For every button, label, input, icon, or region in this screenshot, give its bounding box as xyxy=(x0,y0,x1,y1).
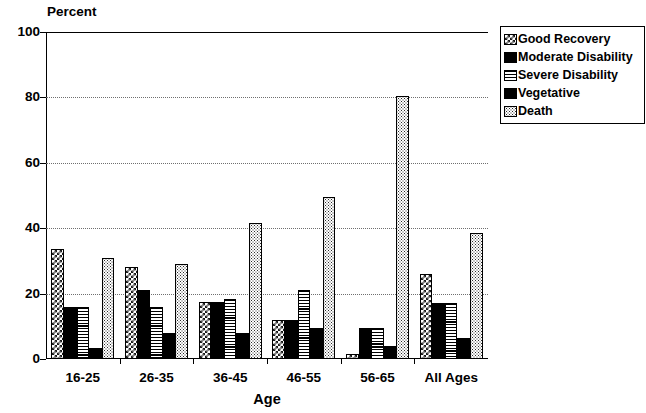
legend-label: Moderate Disability xyxy=(518,51,633,64)
x-tick-label: 56-65 xyxy=(360,370,395,385)
bar xyxy=(125,267,138,359)
legend-swatch-icon xyxy=(504,34,517,45)
legend: Good RecoveryModerate DisabilitySevere D… xyxy=(500,26,645,124)
bar xyxy=(323,197,336,359)
bar xyxy=(199,302,212,359)
legend-item: Good Recovery xyxy=(504,30,644,48)
bar xyxy=(89,348,102,359)
y-tick-label: 100 xyxy=(0,25,40,39)
x-tick-mark xyxy=(120,358,121,364)
x-tick-label: All Ages xyxy=(424,370,478,385)
bar xyxy=(359,328,372,359)
y-axis-title: Percent xyxy=(47,4,97,19)
bar xyxy=(457,338,470,359)
bar xyxy=(420,274,433,359)
bar xyxy=(77,307,90,359)
bar xyxy=(175,264,188,359)
legend-item: Death xyxy=(504,102,644,120)
legend-swatch-icon xyxy=(504,70,517,81)
legend-item: Severe Disability xyxy=(504,66,644,84)
bar xyxy=(310,328,323,359)
bar xyxy=(272,320,285,359)
bar xyxy=(396,96,409,359)
legend-label: Good Recovery xyxy=(518,33,610,46)
legend-item: Moderate Disability xyxy=(504,48,644,66)
bar xyxy=(224,299,237,359)
bar xyxy=(249,223,262,359)
bar xyxy=(384,346,397,359)
x-tick-label: 36-45 xyxy=(213,370,248,385)
x-tick-mark xyxy=(341,358,342,364)
x-tick-label: 26-35 xyxy=(139,370,174,385)
x-tick-label: 16-25 xyxy=(66,370,101,385)
bar xyxy=(102,258,115,359)
legend-label: Death xyxy=(518,105,553,118)
y-tick-label: 60 xyxy=(0,156,40,170)
y-tick-label: 0 xyxy=(0,352,40,366)
y-tick-label: 40 xyxy=(0,221,40,235)
bar xyxy=(470,233,483,359)
bar xyxy=(163,333,176,359)
bar xyxy=(432,303,445,359)
legend-item: Vegetative xyxy=(504,84,644,102)
bar xyxy=(298,290,311,359)
x-axis-title: Age xyxy=(46,391,488,407)
legend-swatch-icon xyxy=(504,52,517,63)
x-tick-label: 46-55 xyxy=(287,370,322,385)
x-tick-mark xyxy=(193,358,194,364)
bar xyxy=(285,320,298,359)
x-tick-mark xyxy=(267,358,268,364)
legend-swatch-icon xyxy=(504,88,517,99)
x-tick-mark xyxy=(414,358,415,364)
bar xyxy=(150,307,163,359)
y-tick-label: 80 xyxy=(0,90,40,104)
legend-label: Severe Disability xyxy=(518,69,618,82)
bars-layer xyxy=(46,32,488,359)
bar-chart: Percent 020406080100 16-2526-3536-4546-5… xyxy=(0,0,646,413)
bar xyxy=(371,328,384,359)
bar xyxy=(211,302,224,359)
bar xyxy=(346,354,359,359)
y-tick-mark xyxy=(40,359,46,360)
bar xyxy=(236,333,249,359)
legend-label: Vegetative xyxy=(518,87,580,100)
bar xyxy=(445,303,458,359)
bar xyxy=(138,290,151,359)
bar xyxy=(64,307,77,359)
y-tick-label: 20 xyxy=(0,287,40,301)
legend-swatch-icon xyxy=(504,106,517,117)
bar xyxy=(51,249,64,359)
